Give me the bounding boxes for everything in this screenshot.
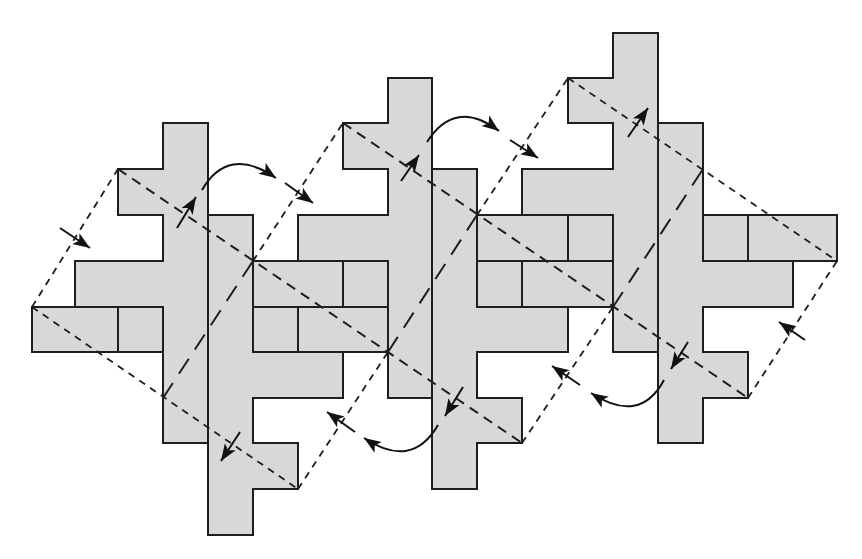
box-2: [118, 307, 163, 352]
box-6: [298, 307, 388, 352]
box-4: [343, 261, 388, 307]
arrow-d-curve: [364, 425, 438, 453]
arrowhead-icon: [327, 412, 345, 427]
piece-a: [75, 123, 208, 443]
box-8: [568, 215, 613, 261]
box-1: [32, 307, 118, 352]
box-7: [477, 215, 568, 261]
arrow-c-curve: [427, 116, 499, 142]
arrow-curve: [364, 425, 438, 451]
arrowhead-icon: [258, 163, 276, 178]
arrow-a-curve: [202, 163, 276, 190]
pieces-layer: [75, 33, 793, 535]
arrowhead-icon: [552, 366, 570, 381]
box-10: [522, 261, 613, 307]
arrow-d-left: [327, 412, 355, 432]
piece-f: [658, 123, 793, 443]
arrowhead-icon: [779, 322, 797, 337]
arrow-curve: [202, 164, 276, 190]
box-12: [748, 215, 837, 261]
arrow-c-right: [510, 140, 538, 158]
arrow-right-inward: [779, 322, 805, 340]
box-5: [253, 307, 298, 352]
arrow-a-right: [285, 183, 313, 203]
arrow-f-left: [552, 366, 580, 385]
arrow-curve: [427, 117, 499, 142]
arrowhead-icon: [72, 233, 90, 248]
box-11: [703, 215, 748, 261]
arrow-f-curve: [591, 380, 664, 408]
arrowhead-icon: [295, 188, 313, 203]
arrow-curve: [591, 380, 664, 406]
arrow-left-inward: [60, 228, 90, 248]
tiling-diagram: [0, 0, 862, 559]
arrowhead-icon: [482, 116, 500, 131]
box-3: [253, 261, 343, 307]
box-9: [477, 261, 522, 307]
